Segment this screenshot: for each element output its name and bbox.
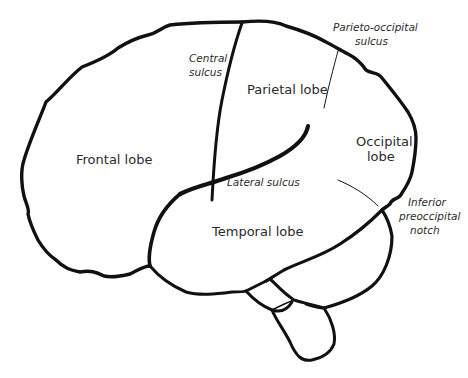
parietal-lobe-label: Parietal lobe <box>247 82 328 97</box>
temporal-lobe-anterior-border <box>149 194 180 266</box>
frontal-lobe-label: Frontal lobe <box>76 152 152 167</box>
medulla-outline <box>272 308 335 360</box>
parieto-occipital-sulcus-label-line2: sulcus <box>355 35 388 47</box>
parieto-occipital-sulcus-line <box>324 51 338 108</box>
inferior-preoccipital-notch-label-line3: notch <box>410 224 440 236</box>
parieto-occipital-sulcus-label-line1: Parieto-occipital <box>333 21 418 33</box>
brain-lobes-diagram: Frontal lobe Parietal lobe Occipital lob… <box>0 0 468 378</box>
occipital-lobe-label-line2: lobe <box>367 149 395 164</box>
temporal-lobe-label: Temporal lobe <box>211 224 303 239</box>
lateral-sulcus-label: Lateral sulcus <box>227 176 300 188</box>
temporal-lobe-inferior-border <box>266 210 382 281</box>
inferior-preoccipital-notch-label-line1: Inferior <box>408 196 447 208</box>
occipital-notch-line <box>338 180 378 206</box>
occipital-lobe-label-line1: Occipital <box>356 134 413 149</box>
cerebellum-outline <box>306 210 392 308</box>
inferior-preoccipital-notch-label-line2: preoccipital <box>398 210 460 222</box>
central-sulcus-label-line1: Central <box>189 52 227 64</box>
central-sulcus-label-line2: sulcus <box>189 66 222 78</box>
brainstem-outline <box>150 266 246 294</box>
